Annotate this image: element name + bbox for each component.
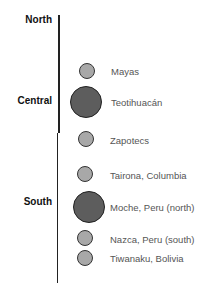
culture-label: Nazca, Peru (south) xyxy=(110,234,194,245)
culture-label: Moche, Peru (north) xyxy=(110,202,194,213)
culture-label: Mayas xyxy=(111,66,139,77)
region-label-north: North xyxy=(25,14,52,25)
culture-marker-tairona xyxy=(77,166,93,182)
region-label-south: South xyxy=(24,196,52,207)
culture-marker-zapotecs xyxy=(78,131,94,147)
culture-marker-tiwanaku xyxy=(77,250,93,266)
culture-marker-moche xyxy=(73,191,105,223)
culture-marker-teotihuacan xyxy=(70,86,102,118)
culture-label: Tairona, Columbia xyxy=(110,170,187,181)
vertical-axis-lower xyxy=(57,133,59,283)
culture-label: Tiwanaku, Bolivia xyxy=(110,253,184,264)
culture-marker-mayas xyxy=(79,63,95,79)
culture-marker-nazca xyxy=(77,230,93,246)
culture-label: Zapotecs xyxy=(110,135,149,146)
vertical-axis xyxy=(58,15,60,133)
culture-label: Teotihuacán xyxy=(111,97,162,108)
region-label-central: Central xyxy=(18,95,52,106)
